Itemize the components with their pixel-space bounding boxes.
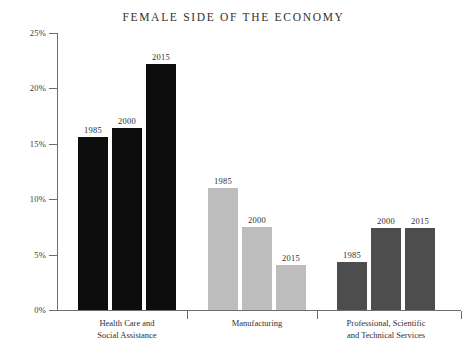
x-axis-tick	[187, 311, 188, 319]
y-axis-line	[57, 33, 58, 311]
y-axis-tick-label: 10%	[2, 194, 46, 204]
bar	[208, 188, 238, 310]
y-axis-tick-label: 20%	[2, 83, 46, 93]
bar-value-label: 2000	[377, 216, 395, 226]
x-axis-group-label-line: Social Assistance	[97, 330, 156, 342]
bar	[337, 262, 367, 310]
bar-value-label: 2015	[152, 52, 170, 62]
x-axis-group-label: Manufacturing	[232, 318, 283, 330]
x-axis-group-label-line: Professional, Scientific	[347, 318, 426, 330]
bar-value-label: 1985	[214, 176, 232, 186]
bar-value-label: 2000	[248, 215, 266, 225]
bar	[276, 265, 306, 310]
chart-container: FEMALE SIDE OF THE ECONOMY 25%20%15%10%5…	[0, 0, 467, 347]
x-axis-group-label-line: Manufacturing	[232, 318, 283, 330]
x-axis-group-label-line: Health Care and	[97, 318, 156, 330]
x-axis-group-label-line: and Technical Services	[347, 330, 426, 342]
bar-value-label: 2015	[282, 253, 300, 263]
x-axis-tick	[317, 311, 318, 319]
y-axis-tick	[49, 255, 57, 256]
x-axis-group-label: Health Care andSocial Assistance	[97, 318, 156, 341]
bar	[371, 228, 401, 310]
bar-value-label: 2015	[411, 216, 429, 226]
y-axis-tick-label: 0%	[2, 305, 46, 315]
y-axis-tick	[49, 144, 57, 145]
y-axis-tick	[49, 88, 57, 89]
y-axis-tick	[49, 310, 57, 311]
bar	[405, 228, 435, 310]
y-axis-tick-label: 25%	[2, 28, 46, 38]
y-axis-tick	[49, 33, 57, 34]
bar-value-label: 2000	[118, 116, 136, 126]
y-axis-tick-label: 5%	[2, 250, 46, 260]
x-axis-line	[57, 310, 461, 311]
plot-area: 25%20%15%10%5%0% 19852000201519852000201…	[0, 0, 467, 347]
bar	[112, 128, 142, 310]
y-axis-tick-label: 15%	[2, 139, 46, 149]
x-axis-group-label: Professional, Scientificand Technical Se…	[347, 318, 426, 341]
bar	[78, 137, 108, 310]
bar	[242, 227, 272, 310]
bar-value-label: 1985	[84, 125, 102, 135]
x-axis-tick	[461, 311, 462, 319]
bar-value-label: 1985	[343, 250, 361, 260]
y-axis-tick	[49, 199, 57, 200]
bar	[146, 64, 176, 310]
